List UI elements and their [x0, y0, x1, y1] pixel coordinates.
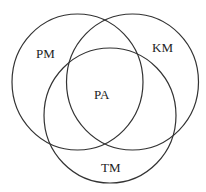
- venn-diagram: PM KM PA TM: [0, 0, 206, 192]
- label-tm: TM: [101, 160, 121, 175]
- label-pa: PA: [94, 87, 110, 102]
- circle-km: [67, 14, 199, 150]
- label-pm: PM: [36, 46, 55, 61]
- label-km: KM: [152, 40, 173, 55]
- circle-pm: [12, 14, 143, 150]
